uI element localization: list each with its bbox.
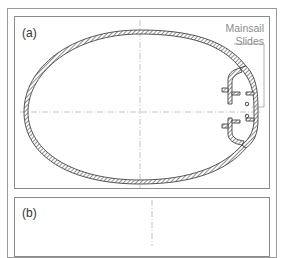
mast-wall-icon xyxy=(24,30,258,184)
